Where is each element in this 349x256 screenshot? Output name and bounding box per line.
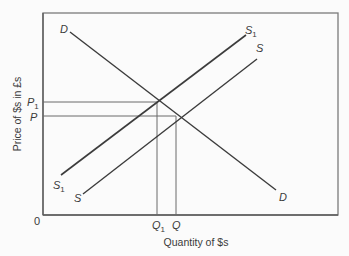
label-q1: Q1 (152, 219, 166, 234)
label-s1-bottom-sub: 1 (60, 185, 65, 194)
label-q: Q (172, 219, 181, 231)
label-d-top: D (60, 23, 68, 35)
supply-demand-diagram: D D S1 S S1 S P1 P 0 Q1 Q Quantity of $s… (0, 0, 349, 256)
supply-curve-s (83, 59, 257, 194)
plot-frame (43, 13, 338, 215)
label-s1-top: S1 (245, 24, 257, 39)
demand-curve-d (70, 32, 276, 190)
label-p1-sub: 1 (34, 102, 39, 111)
label-s-top: S (256, 42, 264, 54)
label-s1-bottom: S1 (53, 179, 65, 194)
x-axis-title: Quantity of $s (164, 236, 229, 248)
label-d-bottom: D (279, 191, 287, 203)
label-p1: P1 (27, 96, 39, 111)
label-q1-sub: 1 (161, 225, 166, 234)
label-p: P (30, 111, 38, 123)
y-axis-title: Price of $s in £s (11, 77, 23, 152)
label-s1-top-sub: 1 (252, 30, 257, 39)
supply-curve-s1 (61, 35, 246, 175)
label-origin: 0 (34, 215, 40, 227)
label-s-bottom: S (74, 192, 82, 204)
